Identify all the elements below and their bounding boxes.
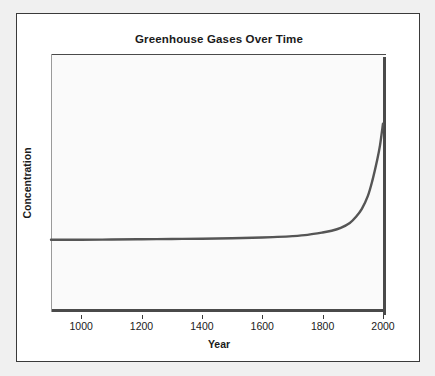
x-tick-label: 1800 [311, 320, 334, 332]
x-tick-mark [81, 315, 82, 319]
x-tick-mark [202, 315, 203, 319]
x-tick-label: 2000 [371, 320, 394, 332]
x-tick-mark [323, 315, 324, 319]
chart-title: Greenhouse Gases Over Time [17, 33, 421, 45]
x-axis-label: Year [17, 338, 421, 350]
x-tick-mark [262, 315, 263, 319]
chart-card: Greenhouse Gases Over Time 1000120014001… [16, 13, 420, 362]
x-tick-mark [383, 315, 384, 319]
y-axis-label: Concentration [21, 147, 33, 218]
data-line-series [51, 54, 386, 312]
x-tick-label: 1600 [251, 320, 274, 332]
x-tick-label: 1400 [190, 320, 213, 332]
plot-area [51, 54, 386, 312]
x-tick-label: 1000 [69, 320, 92, 332]
x-tick-mark [142, 315, 143, 319]
x-tick-label: 1200 [130, 320, 153, 332]
